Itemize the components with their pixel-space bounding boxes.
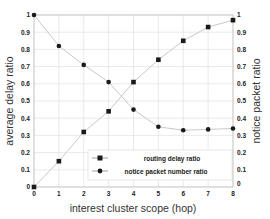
square-data-point <box>57 159 62 164</box>
square-data-point <box>206 25 211 30</box>
x-tick-label: 6 <box>181 190 185 197</box>
circle-data-point <box>131 107 136 112</box>
left-y-tick-label: 0.6 <box>21 80 30 87</box>
circle-data-point <box>206 127 211 132</box>
left-y-axis-ticks: 00.10.20.30.40.50.60.70.80.91 <box>21 11 30 190</box>
square-data-point <box>181 39 186 44</box>
x-axis-ticks: 012345678 <box>32 190 235 197</box>
left-y-tick-label: 0.8 <box>21 46 30 53</box>
right-y-tick-label: 0.7 <box>237 63 246 70</box>
dual-axis-line-chart: 00.10.20.30.40.50.60.70.80.91 00.10.20.3… <box>0 0 270 219</box>
left-y-tick-label: 0.3 <box>21 132 30 139</box>
left-y-tick-label: 1 <box>26 11 30 18</box>
circle-data-point <box>156 125 161 130</box>
circle-data-point <box>57 44 62 49</box>
right-y-tick-label: 0.9 <box>237 29 246 36</box>
square-data-point <box>106 109 111 114</box>
circle-data-point <box>32 13 37 18</box>
square-data-point <box>32 185 37 190</box>
x-tick-label: 3 <box>107 190 111 197</box>
right-y-axis-ticks: 00.10.20.30.40.50.60.70.80.91 <box>237 11 246 187</box>
circle-data-point <box>231 126 236 131</box>
left-y-tick-label: 0.5 <box>21 97 30 104</box>
right-y-tick-label: 0.5 <box>237 97 246 104</box>
right-y-tick-label: 0.2 <box>237 149 246 156</box>
left-y-tick-label: 0.2 <box>21 149 30 156</box>
square-data-point <box>231 18 236 23</box>
legend-label-routing-delay: routing delay ratio <box>144 155 201 163</box>
left-y-tick-label: 0.9 <box>21 29 30 36</box>
x-tick-label: 2 <box>82 190 86 197</box>
square-marker-icon <box>98 156 103 161</box>
left-y-tick-label: 0.7 <box>21 63 30 70</box>
circle-marker-icon <box>98 169 103 174</box>
right-y-tick-label: 1 <box>237 11 241 18</box>
x-tick-label: 0 <box>32 190 36 197</box>
left-y-axis-label: average delay ratio <box>3 56 15 145</box>
right-y-tick-label: 0.6 <box>237 80 246 87</box>
right-y-tick-label: 0.8 <box>237 46 246 53</box>
circle-data-point <box>81 63 86 68</box>
x-tick-label: 8 <box>231 190 235 197</box>
right-y-tick-label: 0 <box>237 180 241 187</box>
right-y-tick-label: 0.3 <box>237 132 246 139</box>
x-tick-label: 5 <box>157 190 161 197</box>
legend-label-notice-packet: notice packet number ratio <box>124 168 207 176</box>
square-data-point <box>131 80 136 85</box>
x-axis-label: interest cluster scope (hop) <box>70 202 197 214</box>
left-y-tick-label: 0 <box>26 183 30 190</box>
square-data-point <box>156 57 161 62</box>
x-tick-label: 4 <box>132 190 136 197</box>
x-tick-label: 1 <box>57 190 61 197</box>
right-y-tick-label: 0.4 <box>237 115 246 122</box>
left-y-tick-label: 0.1 <box>21 166 30 173</box>
x-tick-label: 7 <box>206 190 210 197</box>
circle-data-point <box>106 80 111 85</box>
square-data-point <box>81 130 86 135</box>
right-y-tick-label: 0.1 <box>237 166 246 173</box>
circle-data-point <box>181 128 186 133</box>
legend: routing delay ratio notice packet number… <box>88 150 232 180</box>
right-y-axis-label: notice packet ratio <box>250 58 262 143</box>
left-y-tick-label: 0.4 <box>21 115 30 122</box>
